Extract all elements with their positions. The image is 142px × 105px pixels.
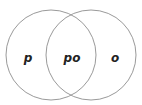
label-left-only: p — [23, 51, 33, 65]
label-intersection: po — [63, 51, 81, 65]
right-circle — [46, 10, 136, 100]
label-right-only: o — [111, 51, 119, 65]
venn-diagram: p po o — [0, 0, 142, 105]
left-circle — [6, 10, 96, 100]
